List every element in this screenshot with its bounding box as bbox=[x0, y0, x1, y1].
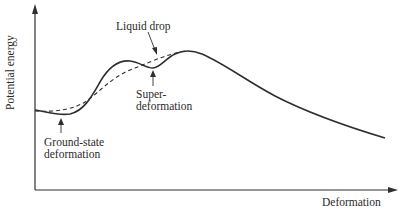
liquid-drop-arrow-icon bbox=[152, 47, 157, 55]
x-axis-arrow-icon bbox=[388, 187, 398, 193]
superdeformation-arrow-icon bbox=[150, 70, 156, 77]
liquid-drop-pointer bbox=[148, 32, 155, 50]
liquid-drop-label: Liquid drop bbox=[116, 20, 171, 32]
potential-energy-diagram: Potential energy Liquid drop Super- defo… bbox=[0, 0, 406, 214]
ground-state-label-line2: deformation bbox=[44, 148, 100, 160]
diagram-canvas bbox=[0, 0, 406, 214]
superdeformation-label-line1: Super- bbox=[136, 88, 166, 100]
y-axis-arrow-icon bbox=[32, 4, 38, 14]
ground-state-label-line1: Ground-state bbox=[44, 136, 104, 148]
superdeformation-label-line2: deformation bbox=[136, 100, 192, 112]
potential-energy-curve bbox=[35, 51, 385, 138]
x-axis-label: Deformation bbox=[322, 196, 381, 208]
ground-state-arrow-icon bbox=[58, 118, 64, 125]
y-axis-label: Potential energy bbox=[4, 35, 16, 110]
